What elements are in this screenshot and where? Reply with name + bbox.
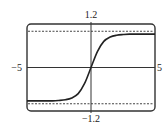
- y-max-label: 1.2: [85, 9, 98, 20]
- x-min-label: −5: [11, 62, 22, 73]
- y-min-label: −1.2: [82, 113, 100, 124]
- x-max-label: 5: [157, 62, 162, 73]
- chart: 1.2 −1.2 −5 5: [0, 0, 166, 127]
